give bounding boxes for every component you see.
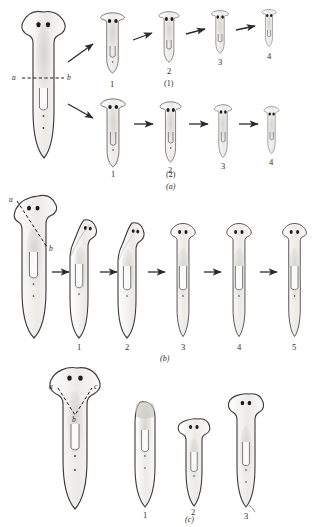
cut-label-a: a <box>12 74 16 82</box>
stage-number: 1 <box>111 170 115 179</box>
stage-number: 3 <box>244 512 248 521</box>
eyespot-right <box>46 22 50 27</box>
stage-number: 2 <box>125 343 129 352</box>
panel-label-a: (a) <box>166 183 175 191</box>
cut-label-b: b <box>49 245 53 253</box>
row-label-1: (1) <box>164 80 173 88</box>
cut-label-c: c <box>94 383 97 391</box>
stage-number: 1 <box>77 343 81 352</box>
stage-number: 3 <box>218 58 222 67</box>
panel-label-b: (b) <box>160 355 169 363</box>
blastema <box>136 402 155 419</box>
stage-number: 4 <box>237 343 241 352</box>
stage-number: 4 <box>267 52 271 61</box>
planarian-regeneration-figure <box>0 0 315 527</box>
stage-number: 5 <box>292 343 296 352</box>
panel-label-c: (c) <box>185 516 194 524</box>
stage-number: 1 <box>143 511 147 520</box>
pharynx <box>40 88 48 110</box>
stage-number: 1 <box>110 80 114 89</box>
eyespot-left <box>36 22 40 27</box>
cut-label-b: b <box>72 416 76 424</box>
stage-number: 3 <box>181 343 185 352</box>
stage-worm <box>135 402 155 507</box>
stage-number: 4 <box>269 158 273 167</box>
cut-label-a: a <box>49 383 53 391</box>
row-label-2: (2) <box>166 171 175 179</box>
cut-label-a: a <box>9 196 13 204</box>
stage-number: 3 <box>221 162 225 171</box>
stage-number: 2 <box>167 67 171 76</box>
cut-label-b: b <box>67 74 71 82</box>
